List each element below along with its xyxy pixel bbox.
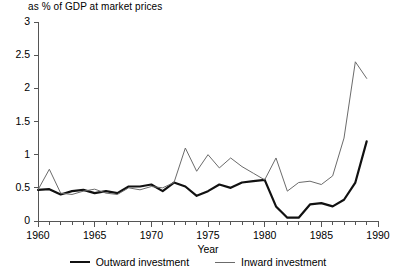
y-tick-label: 2.5 <box>2 48 30 60</box>
legend-item-inward: Inward investment <box>215 256 326 268</box>
y-tick-label: 2 <box>2 81 30 93</box>
axes <box>34 22 378 227</box>
y-tick-label: 3 <box>2 15 30 27</box>
x-tick-label: 1960 <box>16 229 60 241</box>
legend-line-outward-icon <box>70 261 90 263</box>
legend-label-inward: Inward investment <box>241 256 326 268</box>
y-tick-label: 1 <box>2 148 30 160</box>
series-line-outward <box>38 141 367 217</box>
legend-line-inward-icon <box>215 262 235 263</box>
x-axis-label: Year <box>168 243 248 255</box>
x-tick-label: 1980 <box>243 229 287 241</box>
x-tick-label: 1975 <box>186 229 230 241</box>
data-series <box>38 62 367 218</box>
y-tick-label: 0 <box>2 214 30 226</box>
x-tick-label: 1985 <box>299 229 343 241</box>
chart-legend: Outward investment Inward investment <box>0 256 396 268</box>
series-line-inward <box>38 62 367 195</box>
legend-item-outward: Outward investment <box>70 256 189 268</box>
legend-label-outward: Outward investment <box>96 256 189 268</box>
x-tick-label: 1965 <box>73 229 117 241</box>
x-tick-label: 1970 <box>129 229 173 241</box>
chart-figure: as % of GDP at market prices 00.511.522.… <box>0 0 396 279</box>
y-tick-label: 1.5 <box>2 115 30 127</box>
y-tick-label: 0.5 <box>2 181 30 193</box>
x-tick-label: 1990 <box>356 229 396 241</box>
